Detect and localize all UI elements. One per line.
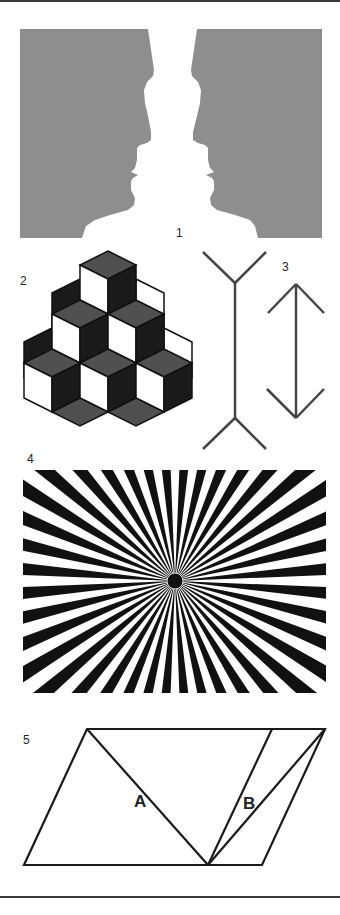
outer-parallelogram: [24, 729, 325, 865]
inner-divider: [208, 729, 272, 865]
segment-b: [208, 729, 325, 865]
segment-a-label: A: [134, 792, 146, 812]
figure-5-label: 5: [23, 733, 30, 747]
segment-b-label: B: [243, 794, 255, 814]
bottom-rule: [0, 896, 340, 898]
segment-a: [87, 729, 208, 865]
sander-lines: [24, 729, 325, 865]
figure-5-sander-parallelogram: [0, 0, 340, 900]
